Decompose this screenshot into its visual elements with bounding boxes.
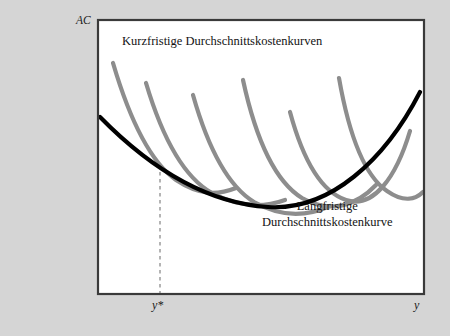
short-run-average-cost-curve (113, 63, 236, 193)
short-run-annotation-line2: Durchschnittskostenkurven (186, 34, 323, 48)
figure-container: AC y* y Kurzfristige Durchschnittskosten… (0, 0, 450, 336)
cost-curves-chart (0, 0, 450, 336)
short-run-annotation: Kurzfristige Durchschnittskostenkurven (122, 33, 322, 49)
curve-paths (100, 63, 423, 214)
long-run-annotation-line2: Durchschnittskostenkurve (262, 214, 393, 230)
y-axis-label: AC (76, 14, 91, 26)
chart-series-group (100, 63, 423, 214)
x-marker-label: y* (152, 298, 163, 313)
short-run-annotation-line1: Kurzfristige (122, 34, 182, 48)
long-run-annotation-line1: Langfristige (262, 198, 393, 214)
long-run-annotation: Langfristige Durchschnittskostenkurve (262, 198, 393, 230)
x-axis-label: y (414, 298, 419, 313)
